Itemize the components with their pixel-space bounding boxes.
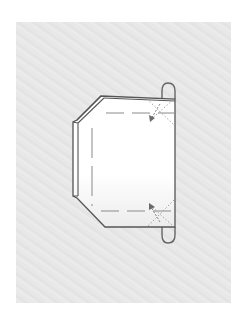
diagram-canvas	[0, 0, 247, 313]
top-loop	[162, 83, 175, 99]
bottom-loop	[162, 227, 175, 243]
fold-diagram	[0, 0, 247, 313]
paper-shape	[73, 96, 175, 227]
